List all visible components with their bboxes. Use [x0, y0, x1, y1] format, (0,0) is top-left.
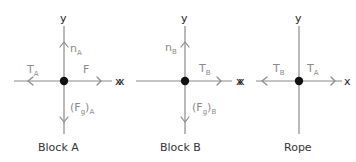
diagram-block-b: y x x nB TB (Fg)B Block B [118, 12, 243, 154]
y-axis-label: y [60, 12, 67, 25]
force-label-TA: TA [306, 62, 319, 77]
force-label-F: F [83, 63, 89, 76]
force-label-nB: nB [165, 41, 177, 56]
particle-dot [60, 77, 68, 85]
particle-dot [295, 77, 303, 85]
force-label-TA: TA [26, 63, 39, 78]
diagram-title: Block A [38, 141, 79, 154]
diagram-title: Rope [284, 141, 312, 154]
free-body-diagrams: y x nA TA F (Fg)A Block A y x x nB TB (F… [0, 0, 356, 162]
neg-x-axis-label: x [238, 75, 245, 88]
y-axis-label: y [295, 12, 302, 25]
particle-dot [181, 77, 189, 85]
y-axis-label: y [181, 12, 188, 25]
diagram-rope: y x x TB TA Rope [238, 12, 351, 154]
diagram-title: Block B [160, 141, 201, 154]
force-label-TB: TB [272, 62, 285, 77]
force-label-FgB: (Fg)B [192, 101, 216, 116]
force-label-FgA: (Fg)A [70, 101, 94, 116]
force-label-nA: nA [70, 42, 82, 57]
force-label-TB: TB [198, 62, 211, 77]
neg-x-axis-label: x [118, 75, 125, 88]
x-axis-label: x [344, 75, 351, 88]
diagram-block-a: y x nA TA F (Fg)A Block A [14, 12, 122, 154]
